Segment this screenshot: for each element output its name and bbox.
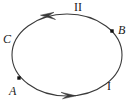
figure-canvas: C A B I II xyxy=(0,0,135,106)
closed-curve-c xyxy=(12,14,122,96)
point-b-marker xyxy=(110,29,113,32)
label-point-a: A xyxy=(9,85,16,97)
label-curve-c: C xyxy=(3,33,11,45)
label-point-b: B xyxy=(118,24,125,36)
point-a-marker xyxy=(17,76,20,79)
curve-diagram-svg xyxy=(0,0,135,106)
label-arc-one: I xyxy=(107,80,111,92)
label-arc-two: II xyxy=(74,1,82,13)
